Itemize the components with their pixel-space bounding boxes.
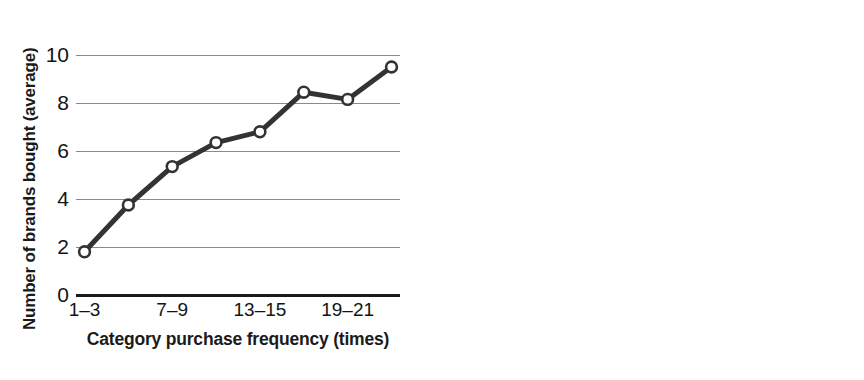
- y-axis-title-left: Number of brands bought (average): [20, 48, 40, 330]
- data-point-marker: [342, 94, 353, 105]
- chart-panel-left: Number of brands bought (average) 024681…: [0, 0, 432, 380]
- data-point-marker: [211, 137, 222, 148]
- figure-two-line-charts: Number of brands bought (average) 024681…: [0, 0, 864, 380]
- x-axis-title-left: Category purchase frequency (times): [87, 329, 389, 350]
- x-axis-tick-label: 13–15: [234, 299, 287, 321]
- y-axis-tick-label: 2: [57, 235, 69, 259]
- x-axis-tick-label: 7–9: [156, 299, 188, 321]
- y-axis-tick-label: 0: [57, 283, 69, 307]
- x-axis-tick-label: 1–3: [69, 299, 101, 321]
- data-point-marker: [255, 126, 266, 137]
- y-axis-tick-label: 6: [57, 139, 69, 163]
- data-series-left: [76, 55, 400, 295]
- data-point-marker: [386, 62, 397, 73]
- y-axis-tick-label: 4: [57, 187, 69, 211]
- y-axis-tick-label: 8: [57, 91, 69, 115]
- data-point-marker: [167, 161, 178, 172]
- data-point-marker: [79, 246, 90, 257]
- data-point-marker: [298, 87, 309, 98]
- plot-area-left: 02468101–37–913–1519–21 Category purchas…: [76, 55, 400, 295]
- chart-panel-right: Repertoire size as % of category purchas…: [432, 0, 864, 380]
- y-axis-tick-label: 10: [46, 43, 69, 67]
- x-axis-tick-label: 19–21: [321, 299, 374, 321]
- data-point-marker: [123, 200, 134, 211]
